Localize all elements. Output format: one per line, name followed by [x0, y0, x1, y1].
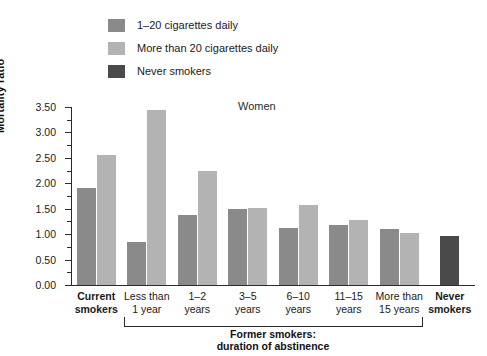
y-axis-major-tick: 0.50 — [65, 260, 71, 261]
former-smokers-bracket-caption: Former smokers: duration of abstinence — [124, 328, 423, 352]
y-axis-tick-label: 3.00 — [36, 127, 56, 137]
y-axis-major-tick: 3.50 — [65, 107, 71, 108]
category-label-line-1: 3–5 — [223, 290, 274, 303]
y-axis-minor-tick — [67, 247, 71, 248]
former-smokers-bracket — [124, 317, 423, 327]
x-axis-category-label: 3–5years — [223, 290, 274, 315]
legend-item: 1–20 cigarettes daily — [108, 14, 408, 37]
legend-swatch-never-smokers — [108, 65, 125, 78]
y-axis-minor-tick — [67, 196, 71, 197]
bar — [178, 215, 197, 285]
category-label-line-1: Less than — [122, 290, 173, 303]
category-label-line-1: More than — [374, 290, 425, 303]
category-label-line-1: 6–10 — [273, 290, 324, 303]
legend-item: More than 20 cigarettes daily — [108, 37, 408, 60]
category-label-line-2: 1 year — [122, 303, 173, 316]
category-label-line-2: years — [273, 303, 324, 316]
legend-label-more-than-20-cigarettes: More than 20 cigarettes daily — [137, 42, 278, 55]
y-axis-major-tick: 0.00 — [65, 285, 71, 286]
category-label-line-2: 15 years — [374, 303, 425, 316]
y-axis-major-tick: 2.50 — [65, 158, 71, 159]
bar — [329, 225, 348, 285]
y-axis-tick-label: 1.50 — [36, 204, 56, 214]
category-label-line-2: smokers — [425, 303, 476, 316]
category-label-line-2: years — [172, 303, 223, 316]
y-axis-tick-label: 0.00 — [36, 280, 56, 290]
y-axis-minor-tick — [67, 171, 71, 172]
y-axis-tick-label: 0.50 — [36, 255, 56, 265]
x-axis-category-label: More than15 years — [374, 290, 425, 315]
y-axis-tick-label: 2.50 — [36, 153, 56, 163]
bar — [198, 171, 217, 285]
bar — [147, 110, 166, 285]
category-label-line-2: years — [223, 303, 274, 316]
bracket-caption-line-1: Former smokers: — [124, 328, 423, 340]
bar — [228, 209, 247, 285]
y-axis-line — [71, 107, 72, 286]
bar — [127, 242, 146, 285]
y-axis-major-tick: 1.00 — [65, 234, 71, 235]
category-label-line-1: Never — [425, 290, 476, 303]
bar — [349, 220, 368, 285]
bar — [440, 236, 459, 285]
x-axis-line — [71, 285, 475, 286]
bracket-caption-line-2: duration of abstinence — [124, 340, 423, 352]
legend-label-never-smokers: Never smokers — [137, 65, 211, 78]
y-axis-minor-tick — [67, 145, 71, 146]
legend-item: Never smokers — [108, 60, 408, 83]
chart-legend: 1–20 cigarettes daily More than 20 cigar… — [108, 14, 408, 83]
x-axis-category-label: 6–10years — [273, 290, 324, 315]
legend-label-1-20-cigarettes: 1–20 cigarettes daily — [137, 19, 238, 32]
x-axis-category-label: 11–15years — [324, 290, 375, 315]
y-axis-title: Mortality ratio — [0, 59, 6, 133]
bar — [279, 228, 298, 285]
y-axis-tick-label: 2.00 — [36, 178, 56, 188]
y-axis-major-tick: 1.50 — [65, 209, 71, 210]
y-axis-tick-label: 1.00 — [36, 229, 56, 239]
y-axis-major-tick: 3.00 — [65, 132, 71, 133]
bar — [248, 208, 267, 285]
x-axis-category-label: Less than1 year — [122, 290, 173, 315]
category-label-line-1: Current — [71, 290, 122, 303]
y-axis-minor-tick — [67, 221, 71, 222]
x-axis-category-label: 1–2years — [172, 290, 223, 315]
bar — [77, 188, 96, 285]
y-axis-major-tick: 2.00 — [65, 183, 71, 184]
legend-swatch-more-than-20-cigarettes — [108, 42, 125, 55]
bar — [97, 155, 116, 285]
category-label-line-2: smokers — [71, 303, 122, 316]
category-label-line-1: 11–15 — [324, 290, 375, 303]
bar — [400, 233, 419, 285]
bar — [380, 229, 399, 285]
y-axis-minor-tick — [67, 120, 71, 121]
x-axis-category-label: Currentsmokers — [71, 290, 122, 315]
x-axis-category-label: Neversmokers — [425, 290, 476, 315]
legend-swatch-1-20-cigarettes — [108, 19, 125, 32]
y-axis-minor-tick — [67, 272, 71, 273]
category-label-line-2: years — [324, 303, 375, 316]
category-label-line-1: 1–2 — [172, 290, 223, 303]
bar — [299, 205, 318, 285]
y-axis-tick-label: 3.50 — [36, 102, 56, 112]
plot-area: 0.000.501.001.502.002.503.003.50 — [71, 107, 475, 286]
